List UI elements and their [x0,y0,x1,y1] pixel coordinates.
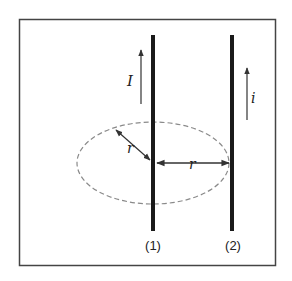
radius-diagonal-label: r [127,140,135,156]
wire-2-label: (2) [225,238,241,253]
current-i-label: i [251,90,255,106]
current-I-label: I [126,72,134,90]
wire-1-label: (1) [145,238,161,253]
radius-horizontal-label: r [189,156,197,172]
diagram-canvas: I i r r (1) (2) [0,0,292,281]
diagram-frame [20,20,276,266]
